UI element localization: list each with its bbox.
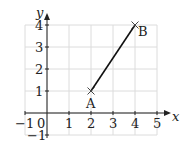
x-axis-arrow-icon [164,110,171,116]
tick-labels: xy−1012345−11234 [15,5,180,143]
y-tick-label: −1 [27,128,46,143]
x-tick-label: 5 [153,116,161,131]
point-label-a: A [85,96,96,111]
y-tick-label: 1 [35,84,43,99]
y-tick-label: 2 [35,62,43,77]
x-tick-label: 4 [131,116,139,131]
x-tick-label: 2 [87,116,95,131]
x-tick-label: 1 [65,116,73,131]
x-axis-label: x [172,109,180,124]
coordinate-chart: xy−1012345−11234 AB [0,0,180,145]
point-label-b: B [138,24,148,39]
plot-area: AB [85,22,148,112]
y-tick-label: 3 [35,40,43,55]
y-axis-arrow-icon [44,13,50,20]
x-tick-label: 3 [109,116,117,131]
y-tick-label: 4 [35,18,43,33]
axes [25,13,171,138]
